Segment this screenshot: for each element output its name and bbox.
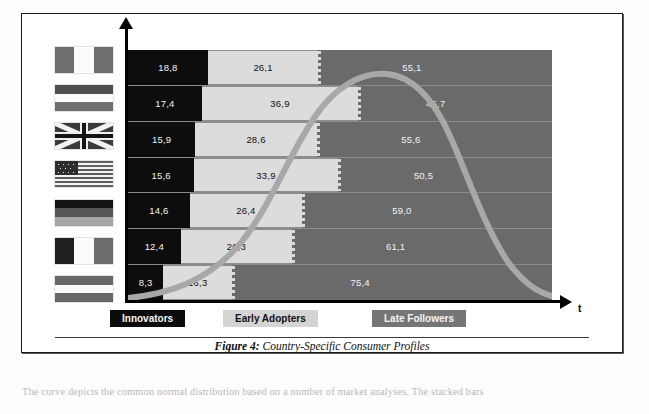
bar-value-label: 36,9 [270, 98, 289, 109]
x-axis [125, 300, 562, 303]
flags-column [55, 47, 115, 302]
bar-row: 15,633,950,5 [128, 158, 552, 194]
bar-value-label: 75,4 [351, 277, 370, 288]
bar-row: 14,626,459,0 [128, 193, 552, 229]
bar-segment-late-followers: 55,1 [318, 50, 552, 85]
flag-stripe [55, 177, 113, 179]
bar-value-label: 33,9 [256, 170, 275, 181]
x-axis-label: t [578, 303, 581, 314]
bar-segment-late-followers: 75,4 [232, 265, 552, 300]
bar-row: 8,316,375,4 [128, 265, 552, 300]
flag-band [55, 85, 113, 94]
bar-row: 15,928,655,6 [128, 122, 552, 158]
flag-band [55, 293, 113, 302]
bar-value-label: 26,1 [253, 62, 272, 73]
caption-text: Country-Specific Consumer Profiles [260, 340, 430, 352]
bar-segment-innovators: 14,6 [128, 193, 190, 228]
caption-label: Figure 4: [215, 340, 260, 352]
bar-value-label: 55,6 [401, 134, 420, 145]
flag-band [55, 102, 113, 111]
flag-band [55, 276, 113, 285]
bar-segment-early-adopters: 26,3 [181, 229, 293, 264]
bar-segment-innovators: 12,4 [128, 229, 181, 264]
flag-band [55, 94, 113, 103]
bar-value-label: 15,9 [152, 134, 171, 145]
flag-band [55, 47, 74, 73]
chart-legend: Innovators Early Adopters Late Followers [110, 310, 530, 328]
flag-austria-icon [55, 276, 113, 302]
stacked-bar-group: 18,826,155,117,436,945,715,928,655,615,6… [128, 50, 552, 300]
bar-segment-innovators: 8,3 [128, 265, 163, 300]
bar-value-label: 15,6 [151, 170, 170, 181]
bar-row: 17,436,945,7 [128, 86, 552, 122]
flag-canton [55, 161, 78, 175]
legend-item-early-adopters[interactable]: Early Adopters [223, 310, 318, 327]
bar-segment-innovators: 15,9 [128, 122, 195, 157]
bar-value-label: 28,6 [246, 134, 265, 145]
caption-divider [55, 337, 589, 338]
flag-united-kingdom-icon [55, 123, 113, 149]
y-axis-arrow-icon [119, 17, 133, 29]
bar-value-label: 16,3 [188, 277, 207, 288]
flag-band [74, 47, 93, 73]
bar-value-label: 61,1 [386, 241, 405, 252]
bar-segment-innovators: 18,8 [128, 50, 208, 85]
x-axis-arrow-icon [560, 295, 572, 309]
bar-value-label: 14,6 [149, 205, 168, 216]
bar-value-label: 55,1 [402, 62, 421, 73]
legend-item-innovators[interactable]: Innovators [110, 310, 185, 327]
bar-segment-late-followers: 50,5 [338, 158, 552, 193]
flag-canada-icon [55, 47, 113, 73]
flag-band [55, 200, 113, 209]
bar-segment-early-adopters: 36,9 [202, 86, 358, 121]
chart-plot-area: 18,826,155,117,436,945,715,928,655,615,6… [128, 50, 552, 300]
flag-band [94, 47, 113, 73]
flag-germany-icon [55, 200, 113, 226]
bar-segment-late-followers: 61,1 [292, 229, 551, 264]
bar-segment-innovators: 15,6 [128, 158, 194, 193]
flag-france-icon [55, 238, 113, 264]
bar-row: 18,826,155,1 [128, 50, 552, 86]
flag-band [94, 238, 113, 264]
bar-value-label: 26,3 [227, 241, 246, 252]
bar-row: 12,426,361,1 [128, 229, 552, 265]
bar-value-label: 12,4 [145, 241, 164, 252]
flag-netherlands-icon [55, 85, 113, 111]
flag-cross-inner [82, 123, 86, 149]
bar-value-label: 26,4 [236, 205, 255, 216]
bar-segment-early-adopters: 26,1 [208, 50, 319, 85]
legend-item-late-followers[interactable]: Late Followers [372, 310, 466, 327]
flag-stripe [55, 181, 113, 183]
figure-caption: Figure 4: Country-Specific Consumer Prof… [21, 340, 623, 352]
bar-segment-late-followers: 45,7 [358, 86, 552, 121]
flag-band [55, 217, 113, 226]
bar-value-label: 17,4 [155, 98, 174, 109]
bar-segment-late-followers: 55,6 [317, 122, 553, 157]
flag-band [74, 238, 93, 264]
flag-band [55, 238, 74, 264]
bar-value-label: 45,7 [426, 98, 445, 109]
flag-band [55, 285, 113, 294]
bar-segment-late-followers: 59,0 [302, 193, 552, 228]
bar-value-label: 50,5 [414, 170, 433, 181]
bar-segment-early-adopters: 33,9 [194, 158, 338, 193]
body-text: The curve depicts the common normal dist… [22, 386, 630, 397]
bar-segment-innovators: 17,4 [128, 86, 202, 121]
bar-segment-early-adopters: 16,3 [163, 265, 232, 300]
figure-page: 18,826,155,117,436,945,715,928,655,615,6… [0, 0, 649, 414]
bar-value-label: 18,8 [158, 62, 177, 73]
flag-united-states-icon [55, 161, 113, 187]
bar-segment-early-adopters: 28,6 [195, 122, 316, 157]
bar-value-label: 8,3 [139, 277, 153, 288]
flag-band [55, 208, 113, 217]
y-axis [125, 26, 128, 302]
flag-stripe [55, 185, 113, 187]
bar-segment-early-adopters: 26,4 [190, 193, 302, 228]
bar-value-label: 59,0 [392, 205, 411, 216]
